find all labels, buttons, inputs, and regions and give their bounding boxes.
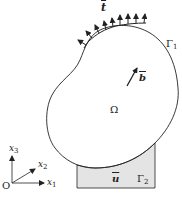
axis-x2-label: x2 [38,160,48,171]
diagram-canvas [0,0,182,206]
elasticity-boundary-diagram: t Γ1 b Ω u Γ2 O x1 x2 x3 [0,0,182,206]
traction-arrows [78,14,145,45]
axis-index: 2 [43,163,47,171]
gamma-index: 1 [173,43,177,51]
axis-index: 3 [14,147,18,155]
traction-boundary-line [84,23,146,48]
boundary-gamma2-label: Γ2 [137,174,148,186]
axis-index: 1 [52,181,56,189]
body-force-arrow [127,68,137,86]
body-force-label: b [139,73,146,83]
origin-label: O [2,181,10,191]
gamma-index: 2 [144,178,148,186]
traction-label: t [101,2,106,13]
axis-x3-label: x3 [9,144,19,155]
axis-x1-label: x1 [47,178,57,189]
gamma-symbol: Γ [166,38,173,49]
boundary-gamma1-label: Γ1 [166,39,177,51]
gamma-symbol: Γ [137,173,144,184]
axis-x2-arrow [12,169,35,183]
body-outline [47,25,179,168]
domain-omega-label: Ω [110,105,118,115]
displacement-label: u [112,174,119,184]
